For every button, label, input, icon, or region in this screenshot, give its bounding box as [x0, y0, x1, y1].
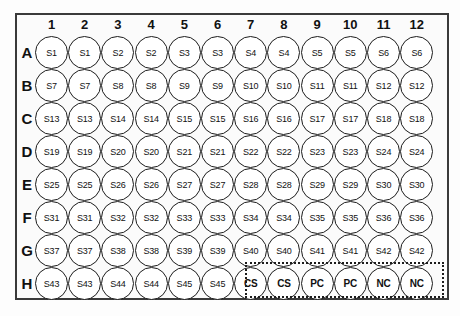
column-header-9: 9	[301, 15, 334, 35]
well-D9: S23	[301, 135, 334, 168]
row-header-B: B	[18, 69, 36, 102]
column-header-3: 3	[101, 15, 134, 35]
well-B10: S11	[334, 69, 367, 102]
well-E7: S28	[234, 168, 267, 201]
well-B8: S10	[267, 69, 300, 102]
well-G5: S39	[168, 234, 201, 267]
well-D6: S21	[201, 135, 234, 168]
well-C2: S13	[68, 102, 101, 135]
well-B2: S7	[68, 69, 101, 102]
well-C10: S17	[334, 102, 367, 135]
well-H7: CS	[234, 267, 267, 300]
well-H4: S44	[135, 267, 168, 300]
well-H2: S43	[68, 267, 101, 300]
well-A4: S2	[135, 36, 168, 69]
well-A1: S1	[35, 36, 68, 69]
well-E1: S25	[35, 168, 68, 201]
well-D12: S24	[400, 135, 433, 168]
well-A3: S2	[101, 36, 134, 69]
well-E12: S30	[400, 168, 433, 201]
well-E11: S30	[367, 168, 400, 201]
well-C11: S18	[367, 102, 400, 135]
well-A10: S5	[334, 36, 367, 69]
well-C3: S14	[101, 102, 134, 135]
well-H5: S45	[168, 267, 201, 300]
well-H9: PC	[301, 267, 334, 300]
column-header-10: 10	[334, 15, 367, 35]
well-D1: S19	[35, 135, 68, 168]
well-A11: S6	[367, 36, 400, 69]
well-E6: S27	[201, 168, 234, 201]
well-C1: S13	[35, 102, 68, 135]
well-C7: S16	[234, 102, 267, 135]
well-A9: S5	[301, 36, 334, 69]
well-C4: S14	[135, 102, 168, 135]
well-F9: S35	[301, 201, 334, 234]
column-header-8: 8	[267, 15, 300, 35]
well-G3: S38	[101, 234, 134, 267]
well-B5: S9	[168, 69, 201, 102]
well-F6: S33	[201, 201, 234, 234]
well-E10: S29	[334, 168, 367, 201]
column-header-12: 12	[400, 15, 433, 35]
well-E4: S26	[135, 168, 168, 201]
well-A5: S3	[168, 36, 201, 69]
well-F10: S35	[334, 201, 367, 234]
well-A2: S1	[68, 36, 101, 69]
well-H10: PC	[334, 267, 367, 300]
column-header-1: 1	[35, 15, 68, 35]
well-A6: S3	[201, 36, 234, 69]
well-E8: S28	[267, 168, 300, 201]
column-header-11: 11	[367, 15, 400, 35]
well-G9: S41	[301, 234, 334, 267]
well-G6: S39	[201, 234, 234, 267]
well-C5: S15	[168, 102, 201, 135]
well-B3: S8	[101, 69, 134, 102]
well-G7: S40	[234, 234, 267, 267]
well-B1: S7	[35, 69, 68, 102]
row-header-column: ABCDEFGH	[18, 36, 36, 300]
well-F1: S31	[35, 201, 68, 234]
well-A12: S6	[400, 36, 433, 69]
well-F2: S31	[68, 201, 101, 234]
well-G10: S41	[334, 234, 367, 267]
column-header-4: 4	[135, 15, 168, 35]
well-D3: S20	[101, 135, 134, 168]
well-A8: S4	[267, 36, 300, 69]
well-B7: S10	[234, 69, 267, 102]
column-header-2: 2	[68, 15, 101, 35]
row-header-F: F	[18, 201, 36, 234]
well-B12: S12	[400, 69, 433, 102]
row-header-A: A	[18, 36, 36, 69]
well-plate-figure: 123456789101112 ABCDEFGH S1S1S2S2S3S3S4S…	[0, 0, 460, 316]
column-header-5: 5	[168, 15, 201, 35]
well-E2: S25	[68, 168, 101, 201]
well-F7: S34	[234, 201, 267, 234]
well-H12: NC	[400, 267, 433, 300]
well-D11: S24	[367, 135, 400, 168]
well-E9: S29	[301, 168, 334, 201]
well-H3: S44	[101, 267, 134, 300]
well-D5: S21	[168, 135, 201, 168]
well-C9: S17	[301, 102, 334, 135]
well-D4: S20	[135, 135, 168, 168]
well-G12: S42	[400, 234, 433, 267]
column-header-7: 7	[234, 15, 267, 35]
well-G11: S42	[367, 234, 400, 267]
well-A7: S4	[234, 36, 267, 69]
column-header-row: 123456789101112	[35, 15, 435, 35]
well-D10: S23	[334, 135, 367, 168]
well-grid: S1S1S2S2S3S3S4S4S5S5S6S6S7S7S8S8S9S9S10S…	[35, 36, 435, 300]
well-F12: S36	[400, 201, 433, 234]
well-B11: S12	[367, 69, 400, 102]
well-D8: S22	[267, 135, 300, 168]
well-H11: NC	[367, 267, 400, 300]
well-D7: S22	[234, 135, 267, 168]
well-F5: S33	[168, 201, 201, 234]
well-G8: S40	[267, 234, 300, 267]
well-B4: S8	[135, 69, 168, 102]
well-H6: S45	[201, 267, 234, 300]
well-F11: S36	[367, 201, 400, 234]
row-header-C: C	[18, 102, 36, 135]
well-G1: S37	[35, 234, 68, 267]
